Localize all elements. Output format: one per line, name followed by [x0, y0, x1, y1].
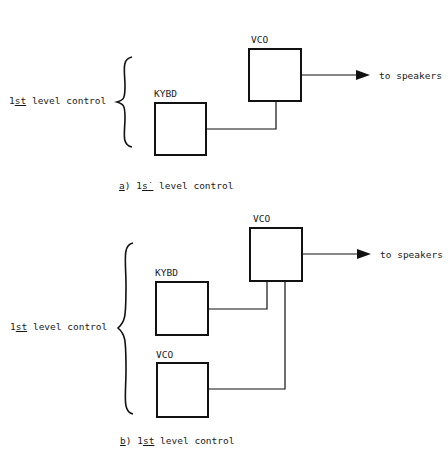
- vco-bottom-box-b: [156, 362, 209, 418]
- ordinal-suffix: s˙: [142, 180, 153, 191]
- bracket-label-text: level control: [26, 95, 106, 106]
- kybd-label-a: KYBD: [154, 89, 177, 99]
- brace-a: [117, 57, 132, 147]
- kybd-box-a: [154, 102, 207, 156]
- caption-paren: ): [125, 180, 131, 191]
- caption-b: b) 1st level control: [120, 436, 234, 446]
- caption-text: level control: [154, 435, 234, 446]
- brace-b: [118, 243, 133, 414]
- output-label-b: to speakers: [380, 250, 443, 260]
- arrowhead-b: [357, 249, 371, 259]
- bracket-label-text: level control: [27, 321, 107, 332]
- connector-vco2-vco-b: [208, 282, 285, 389]
- ordinal-suffix: st: [143, 435, 154, 446]
- ordinal-suffix: st: [16, 321, 27, 332]
- kybd-label-b: KYBD: [155, 268, 178, 278]
- caption-a: a) 1s˙ level control: [119, 181, 233, 191]
- caption-text: level control: [153, 180, 233, 191]
- arrowhead-a: [356, 70, 370, 80]
- output-label-a: to speakers: [379, 71, 442, 81]
- vco-label-a: VCO: [251, 35, 268, 45]
- vco-top-label-b: VCO: [253, 214, 270, 224]
- vco-top-box-b: [249, 227, 303, 282]
- connector-kybd-vco-b: [208, 282, 267, 309]
- bracket-label-a: 1st level control: [9, 96, 106, 106]
- ordinal-suffix: st: [15, 95, 26, 106]
- vco-bottom-label-b: VCO: [156, 350, 173, 360]
- caption-paren: ): [126, 435, 132, 446]
- vco-box-a: [248, 48, 302, 102]
- connector-kybd-vco-a: [206, 101, 276, 129]
- kybd-box-b: [155, 281, 209, 336]
- bracket-label-b: 1st level control: [10, 322, 107, 332]
